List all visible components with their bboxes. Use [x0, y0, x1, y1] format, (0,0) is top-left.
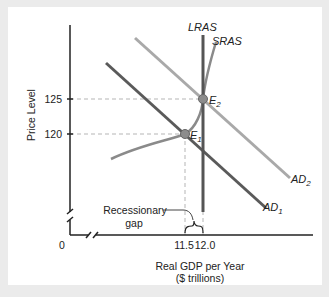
y-axis-label: Price Level [25, 89, 37, 141]
gap-label-line1: Recessionary [103, 204, 167, 216]
sras-label: SRAS [212, 35, 243, 47]
x-tick-label-11-5: 11.5 [174, 239, 194, 251]
lras-label: LRAS [188, 21, 217, 33]
e1-point [181, 130, 190, 139]
origin-label: 0 [59, 239, 65, 251]
recessionary-gap-brace [185, 221, 203, 233]
y-tick-label-120: 120 [44, 128, 62, 140]
x-axis-label-line1: Real GDP per Year [155, 260, 245, 272]
ad2-curve [135, 38, 290, 178]
e2-point [199, 95, 208, 104]
gap-label-line2: gap [125, 217, 143, 229]
x-tick-label-12-0: 12.0 [195, 239, 216, 251]
x-axis-label-line2: ($ trillions) [176, 272, 224, 284]
ad-as-chart: LRAS SRAS E2 E1 AD2 AD1 125 120 Price Le… [0, 0, 329, 297]
ad1-label: AD1 [262, 201, 283, 216]
gap-leader-line [163, 210, 193, 220]
y-tick-label-125: 125 [44, 93, 62, 105]
ad2-label: AD2 [290, 173, 311, 188]
